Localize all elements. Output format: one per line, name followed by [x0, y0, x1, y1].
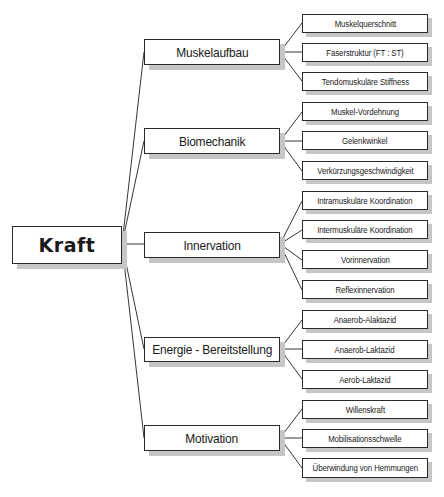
leaf-node: Intermuskuläre Koordination — [302, 220, 428, 239]
leaf-node: Vorinnervation — [302, 250, 428, 269]
leaf-label: Aerob-Laktazid — [339, 375, 390, 385]
leaf-label: Verkürzungsgeschwindigkeit — [317, 166, 413, 176]
leaf-node: Anaerob-Laktazid — [302, 340, 428, 359]
leaf-label: Intramuskuläre Koordination — [317, 196, 412, 206]
leaf-label: Anaerob-Laktazid — [335, 345, 395, 355]
leaf-label: Muskel-Vordehnung — [331, 107, 399, 117]
leaf-label: Tendomuskuläre Stiffness — [321, 77, 408, 87]
branch-label: Biomechanik — [179, 134, 245, 149]
leaf-label: Mobilisationsschwelle — [328, 434, 401, 444]
leaf-label: Vorinnervation — [341, 255, 390, 265]
leaf-label: Muskelquerschnitt — [334, 19, 395, 29]
leaf-node: Überwindung von Hemmungen — [302, 458, 428, 478]
leaf-node: Verkürzungsgeschwindigkeit — [302, 161, 428, 180]
branch-node-motivation: Motivation — [144, 425, 280, 451]
branch-node-innervation: Innervation — [144, 232, 280, 258]
branch-label: Energie - Bereitstellung — [152, 342, 272, 357]
branch-label: Innervation — [183, 238, 240, 253]
branch-node-muskelaufbau: Muskelaufbau — [144, 39, 280, 65]
kraft-concept-diagram: Kraft Muskelaufbau Muskelquerschnitt Fas… — [0, 0, 444, 497]
leaf-label: Willenskraft — [345, 405, 384, 415]
leaf-node: Aerob-Laktazid — [302, 370, 428, 389]
root-node-kraft: Kraft — [12, 226, 122, 264]
branch-label: Muskelaufbau — [176, 45, 248, 60]
leaf-node: Willenskraft — [302, 400, 428, 419]
leaf-node: Faserstruktur (FT : ST) — [302, 43, 428, 62]
leaf-label: Gelenkwinkel — [342, 136, 387, 146]
leaf-label: Anaerob-Alaktazid — [334, 315, 396, 325]
leaf-node: Tendomuskuläre Stiffness — [302, 72, 428, 91]
leaf-node: Gelenkwinkel — [302, 131, 428, 150]
leaf-node: Intramuskuläre Koordination — [302, 191, 428, 210]
leaf-node: Muskelquerschnitt — [302, 14, 428, 33]
leaf-node: Muskel-Vordehnung — [302, 102, 428, 121]
leaf-label: Überwindung von Hemmungen — [312, 463, 418, 473]
leaf-label: Reflexinnervation — [336, 285, 395, 295]
leaf-label: Intermuskuläre Koordination — [317, 225, 412, 235]
branch-label: Motivation — [186, 431, 239, 446]
leaf-label: Faserstruktur (FT : ST) — [326, 48, 403, 58]
leaf-node: Mobilisationsschwelle — [302, 429, 428, 448]
root-label: Kraft — [39, 234, 96, 256]
branch-node-biomechanik: Biomechanik — [144, 128, 280, 154]
leaf-node: Reflexinnervation — [302, 280, 428, 299]
branch-node-energie-bereitstellung: Energie - Bereitstellung — [144, 337, 280, 362]
leaf-node: Anaerob-Alaktazid — [302, 310, 428, 329]
